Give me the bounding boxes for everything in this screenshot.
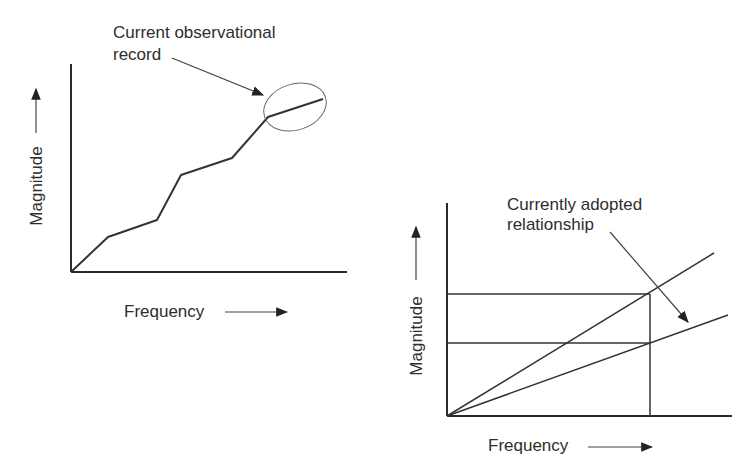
right-x-axis-label: Frequency bbox=[488, 436, 569, 455]
left-x-axis-label: Frequency bbox=[124, 302, 205, 321]
right-annotation-line2: relationship bbox=[507, 215, 594, 234]
left-y-axis-label: Magnitude bbox=[27, 146, 46, 225]
highlight-ellipse bbox=[257, 75, 332, 139]
left-annotation-arrow-icon bbox=[172, 58, 263, 95]
diagram-canvas: Current observational record Magnitude F… bbox=[0, 0, 750, 475]
observational-record-curve bbox=[71, 99, 323, 272]
right-y-axis-label: Magnitude bbox=[407, 296, 426, 375]
right-chart: Currently adopted relationship Magnitude… bbox=[407, 195, 732, 455]
left-annotation-line1: Current observational bbox=[113, 23, 276, 42]
left-chart: Current observational record Magnitude F… bbox=[27, 23, 347, 321]
left-annotation-line2: record bbox=[113, 45, 161, 64]
right-annotation-line1: Currently adopted bbox=[507, 195, 642, 214]
